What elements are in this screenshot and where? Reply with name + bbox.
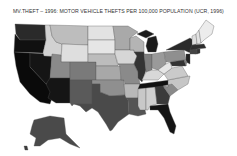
- state-RI: [197, 49, 200, 54]
- state-WI: [130, 36, 144, 52]
- state-KS: [96, 66, 121, 80]
- state-MI-UP: [137, 30, 154, 38]
- state-ME: [199, 20, 214, 43]
- state-NM: [70, 80, 92, 106]
- state-FL: [150, 104, 176, 134]
- state-CO: [70, 62, 96, 80]
- state-IA: [115, 50, 137, 64]
- state-WA: [15, 24, 46, 40]
- state-WY: [61, 44, 88, 62]
- state-AK: [30, 116, 80, 148]
- state-SD: [88, 40, 115, 54]
- state-ND: [88, 26, 115, 40]
- us-choropleth-map: [0, 0, 237, 156]
- state-AR: [124, 84, 140, 98]
- state-MS: [138, 88, 146, 110]
- state-MI: [146, 36, 158, 52]
- state-HI: [24, 146, 28, 150]
